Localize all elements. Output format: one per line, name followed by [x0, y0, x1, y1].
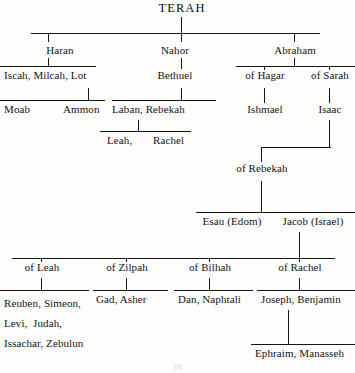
- node-isaac: Isaac: [318, 103, 341, 116]
- node-bilhah-sons: Dan, Naphtali: [178, 293, 241, 306]
- node-ishmael: Ishmael: [247, 103, 283, 116]
- connector-leah-down: [41, 278, 42, 290]
- node-of-hagar: of Hagar: [245, 69, 285, 82]
- node-abraham: Abraham: [274, 44, 316, 57]
- node-of-rachel: of Rachel: [278, 261, 321, 274]
- connector-rachel-down: [299, 278, 300, 290]
- connector-laban-children-bar: [100, 131, 191, 132]
- connector-isaac-down: [329, 120, 330, 148]
- connector-jacob-down: [299, 232, 300, 258]
- node-haran-children: Iscah, Milcah, Lot: [4, 69, 86, 82]
- node-moab: Moab: [4, 103, 30, 116]
- node-laban-rebekah: Laban, Rebekah: [112, 103, 185, 116]
- connector-bilhah-children-bar: [174, 290, 253, 291]
- node-leah: Leah,: [107, 134, 132, 147]
- page-number: 36: [173, 362, 183, 372]
- connector-leah-children-bar: [0, 290, 89, 291]
- connector-zilpah-down: [126, 278, 127, 290]
- node-nahor: Nahor: [161, 44, 189, 57]
- connector-joseph-children-bar: [251, 344, 355, 345]
- connector-haran-children-bar: [0, 66, 96, 67]
- connector-bethuel-down: [181, 88, 182, 100]
- connector-haran-down: [48, 58, 49, 66]
- node-bethuel: Bethuel: [158, 69, 193, 82]
- node-jacob: Jacob (Israel): [283, 215, 344, 228]
- connector-to-haran: [48, 33, 49, 42]
- connector-elbow-to-rebekah: [261, 147, 262, 162]
- genealogy-diagram: TERAH Haran Nahor Abraham Iscah, Milcah,…: [0, 0, 355, 373]
- connector-joseph-down: [288, 310, 289, 344]
- node-rachel: Rachel: [153, 134, 184, 147]
- connector-rebekah-children-bar: [196, 212, 355, 213]
- node-rachel-sons: Joseph, Benjamin: [261, 293, 341, 306]
- node-joseph-sons: Ephraim, Manasseh: [255, 347, 344, 360]
- connector-sarah-down: [329, 88, 330, 103]
- connector-abraham-wives-bar: [236, 66, 355, 67]
- node-leah-sons: Reuben, Simeon, Levi, Judah, Issachar, Z…: [4, 293, 83, 353]
- connector-lot-children-bar: [0, 100, 105, 101]
- diagram-title: TERAH: [158, 1, 205, 16]
- node-of-leah: of Leah: [25, 261, 60, 274]
- node-of-zilpah: of Zilpah: [106, 261, 148, 274]
- node-haran: Haran: [46, 44, 73, 57]
- node-of-bilhah: of Bilhah: [189, 261, 231, 274]
- node-ammon: Ammon: [63, 103, 100, 116]
- connector-terah-sons-bar: [31, 33, 320, 34]
- connector-to-abraham: [294, 33, 295, 42]
- connector-laban-down: [138, 120, 139, 131]
- connector-hagar-down: [264, 88, 265, 103]
- node-zilpah-sons: Gad, Asher: [96, 293, 147, 306]
- node-of-sarah: of Sarah: [311, 69, 349, 82]
- connector-to-nahor: [181, 33, 182, 42]
- connector-terah-trunk: [181, 17, 182, 33]
- connector-bethuel-children-bar: [112, 100, 216, 101]
- connector-abraham-down: [294, 58, 295, 66]
- node-of-rebekah: of Rebekah: [236, 162, 287, 175]
- connector-nahor-down: [181, 58, 182, 69]
- node-esau: Esau (Edom): [203, 215, 262, 228]
- connector-rachel-children-bar: [257, 290, 355, 291]
- connector-isaac-elbow: [261, 147, 331, 148]
- connector-lot-down: [88, 88, 89, 100]
- connector-jacob-wives-bar: [12, 258, 335, 259]
- connector-rebekah-down: [261, 181, 262, 212]
- connector-zilpah-children-bar: [93, 290, 168, 291]
- connector-bilhah-down: [209, 278, 210, 290]
